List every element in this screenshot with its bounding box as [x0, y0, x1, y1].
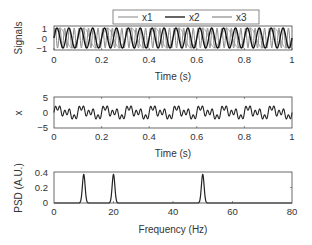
- legend-label-x2: x2: [189, 12, 200, 23]
- signals-ytick-neg1: −1: [36, 43, 47, 54]
- psd-ytick-0.2: 0.2: [35, 182, 48, 193]
- psd-series: [54, 174, 292, 203]
- signals-xtick: 0.2: [95, 54, 108, 65]
- sum-xtick: 0.4: [143, 131, 156, 142]
- signals-panel: 1 0 −1 0 0.2 0.4 0.6 0.8 1 Time (s) Sign…: [13, 10, 295, 82]
- legend-label-x1: x1: [142, 12, 153, 23]
- psd-ticks: [114, 188, 293, 204]
- signals-xtick: 0.4: [143, 54, 156, 65]
- sum-signal-series: [54, 106, 292, 119]
- psd-ytick-0: 0: [43, 197, 48, 208]
- sum-ytick-5: 5: [43, 92, 48, 103]
- psd-xtick: 60: [227, 206, 238, 217]
- signals-xtick: 1: [289, 54, 294, 65]
- sum-xlabel: Time (s): [155, 148, 191, 159]
- legend: x1 x2 x3: [113, 10, 259, 24]
- signals-xtick: 0: [51, 54, 56, 65]
- sum-xtick: 0.6: [190, 131, 203, 142]
- signals-xtick: 0.6: [190, 54, 203, 65]
- sum-xtick: 0.8: [238, 131, 251, 142]
- psd-ylabel: PSD (A.U.): [13, 163, 24, 212]
- sum-signal-panel: 5 0 −5 0 0.2 0.4 0.6 0.8 1 Time (s) x: [13, 92, 295, 159]
- psd-xlabel: Frequency (Hz): [139, 224, 208, 235]
- legend-label-x3: x3: [236, 12, 247, 23]
- figure: 1 0 −1 0 0.2 0.4 0.6 0.8 1 Time (s) Sign…: [0, 0, 312, 245]
- psd-ytick-0.4: 0.4: [35, 167, 48, 178]
- sum-xtick: 1: [289, 131, 294, 142]
- psd-xtick: 40: [168, 206, 179, 217]
- psd-xtick: 20: [108, 206, 119, 217]
- psd-panel: 0.4 0.2 0 0 20 40 60 80 Frequency (Hz) P…: [13, 163, 297, 235]
- psd-xtick: 0: [51, 206, 56, 217]
- sum-ytick-neg5: −5: [37, 122, 48, 133]
- psd-axes-box: [54, 172, 292, 203]
- psd-xtick: 80: [287, 206, 298, 217]
- signals-series: [54, 28, 292, 48]
- sum-ytick-0: 0: [43, 107, 48, 118]
- signals-xtick: 0.8: [238, 54, 251, 65]
- signals-ylabel: Signals: [13, 22, 24, 55]
- sum-xtick: 0: [51, 131, 56, 142]
- sum-ylabel: x: [13, 111, 24, 116]
- sum-xtick: 0.2: [95, 131, 108, 142]
- signals-xlabel: Time (s): [155, 71, 191, 82]
